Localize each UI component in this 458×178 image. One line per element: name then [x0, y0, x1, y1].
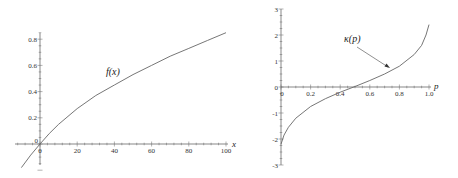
y-tick-label: 0.8: [28, 36, 37, 44]
x-tick-label: 0: [280, 90, 284, 98]
arrowhead-icon: [385, 64, 391, 69]
y-tick-label: 0.2: [28, 114, 37, 122]
x-axis-label: x: [231, 139, 236, 149]
right-chart-kappa-of-p: 00.20.40.60.81.0-3-2-10123pκ(p): [272, 6, 439, 170]
y-tick-label: 0: [35, 137, 39, 145]
x-tick-label: 0.8: [395, 90, 404, 98]
x-tick-label: 0.2: [306, 90, 315, 98]
annotation-arrow-line: [357, 47, 388, 67]
kappa-label: κ(p): [344, 33, 361, 45]
y-tick-label: 0: [275, 84, 279, 92]
x-tick-label: 1.0: [425, 90, 434, 98]
y-tick-label: 1: [275, 58, 279, 66]
x-axis-label: p: [433, 81, 439, 91]
x-tick-label: 100: [221, 147, 232, 155]
y-tick-label: 2: [275, 32, 279, 40]
f-of-x-curve: [21, 33, 226, 168]
figure: 02040608010000.20.40.60.8xf(x) 00.20.40.…: [0, 0, 458, 178]
y-tick-label: -3: [272, 162, 278, 170]
y-tick-label: -2: [272, 136, 278, 144]
x-tick-label: 0.6: [365, 90, 374, 98]
x-tick-label: 40: [111, 147, 119, 155]
f-of-x-label: f(x): [106, 66, 121, 78]
left-chart-f-of-x: 02040608010000.20.40.60.8xf(x): [15, 33, 236, 171]
x-tick-label: 60: [148, 147, 156, 155]
y-tick-label: 0.4: [28, 88, 37, 96]
x-tick-label: 80: [185, 147, 193, 155]
y-tick-label: 3: [275, 6, 279, 14]
y-tick-label: 0.6: [28, 62, 37, 70]
y-tick-label: -1: [272, 110, 278, 118]
x-tick-label: 20: [74, 147, 82, 155]
x-tick-label: 0: [38, 147, 42, 155]
